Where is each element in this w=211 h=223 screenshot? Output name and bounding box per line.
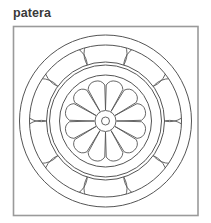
hub-outer <box>95 111 116 132</box>
patera-diagram <box>0 0 211 223</box>
petal <box>74 89 100 115</box>
band-lobe <box>84 32 127 75</box>
band-lobe <box>20 120 63 163</box>
petal <box>111 89 137 115</box>
petal <box>74 127 100 153</box>
band-lobe <box>20 79 63 122</box>
rosette-hub <box>95 111 116 132</box>
band-lobe <box>148 120 191 163</box>
band-lobe <box>84 167 127 210</box>
petal <box>111 127 137 153</box>
band-lobe <box>148 79 191 122</box>
